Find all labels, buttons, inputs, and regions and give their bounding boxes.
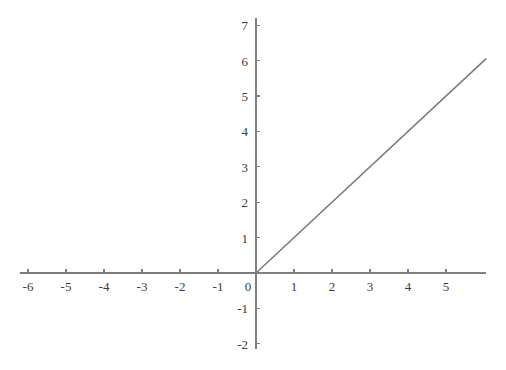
x-axis-tick-label: 4: [405, 280, 412, 293]
y-axis-tick-label: -2: [237, 337, 248, 350]
y-axis-tick-label: -1: [237, 302, 248, 315]
x-axis-tick-label: 2: [329, 280, 336, 293]
y-axis-tick-label: 1: [242, 231, 249, 244]
x-axis-tick-label: -5: [61, 280, 72, 293]
x-axis-tick-label: 1: [291, 280, 298, 293]
data-series-line: [20, 59, 486, 273]
x-axis-tick-label: -4: [99, 280, 110, 293]
y-axis-tick-label: 4: [242, 125, 249, 138]
x-axis-tick-label: -2: [175, 280, 186, 293]
x-axis-tick-label: -3: [137, 280, 148, 293]
y-axis-tick-label: 6: [242, 54, 249, 67]
plot-canvas: [0, 0, 506, 370]
axes-group: [20, 18, 486, 349]
origin-label: 0: [245, 280, 252, 293]
x-axis-tick-label: 3: [367, 280, 374, 293]
data-series-group: [20, 59, 486, 273]
y-axis-tick-label: 7: [242, 19, 249, 32]
graph-figure: -6-5-4-3-2-1012345 7654321-1-2: [0, 0, 506, 370]
y-axis-tick-label: 3: [242, 160, 249, 173]
x-axis-tick-label: -6: [23, 280, 34, 293]
ticks-group: [28, 25, 446, 344]
x-axis-tick-label: 5: [443, 280, 450, 293]
y-axis-tick-label: 5: [242, 90, 249, 103]
y-axis-tick-label: 2: [242, 196, 249, 209]
x-axis-tick-label: -1: [213, 280, 224, 293]
